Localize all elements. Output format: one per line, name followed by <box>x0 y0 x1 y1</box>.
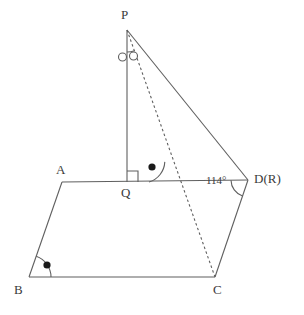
open-circle-mark-p-right <box>130 52 138 60</box>
vertex-label-D: D(R) <box>254 172 281 185</box>
segment-CD <box>215 180 248 277</box>
segment-PD <box>127 30 248 180</box>
vertex-label-C: C <box>213 283 222 296</box>
geometry-figure: P Q A B C D(R) 114° <box>0 0 304 315</box>
figure-canvas <box>0 0 304 315</box>
segment-PC <box>127 30 215 277</box>
vertex-label-Q: Q <box>121 186 130 199</box>
angle-arc-D <box>231 180 243 196</box>
vertex-label-B: B <box>14 283 23 296</box>
filled-dot-mark-b <box>43 261 50 268</box>
vertex-label-P: P <box>121 8 128 21</box>
vertex-label-A: A <box>56 163 65 176</box>
open-circle-mark-p-left <box>119 53 127 61</box>
filled-dot-mark-crossing <box>148 163 155 170</box>
angle-value-label-D: 114° <box>206 175 227 186</box>
right-angle-mark-Q <box>127 171 138 182</box>
